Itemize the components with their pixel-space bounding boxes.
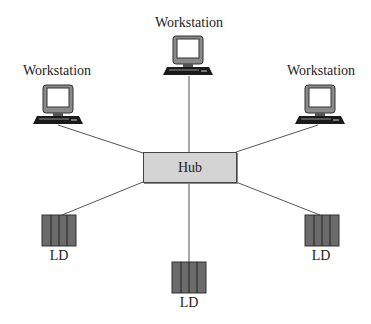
workstation-label-right: Workstation xyxy=(287,63,355,79)
workstation-label-left: Workstation xyxy=(23,63,91,79)
device-label-middle: LD xyxy=(180,295,199,311)
device-label-left: LD xyxy=(50,248,69,264)
hub-label: Hub xyxy=(178,160,202,176)
workstation-icon xyxy=(33,85,83,124)
link-left-device xyxy=(62,182,143,215)
workstation-icon xyxy=(295,85,345,124)
link-left-workstation xyxy=(58,125,143,153)
link-right-workstation xyxy=(236,125,318,152)
device-label-right: LD xyxy=(312,248,331,264)
storage-device-icon xyxy=(305,215,339,246)
link-right-device xyxy=(236,182,320,215)
storage-device-icon xyxy=(42,215,76,246)
storage-device-icon xyxy=(172,262,206,293)
workstation-icon xyxy=(163,36,213,75)
workstation-label-top: Workstation xyxy=(155,15,223,31)
hub-node: Hub xyxy=(143,152,237,183)
